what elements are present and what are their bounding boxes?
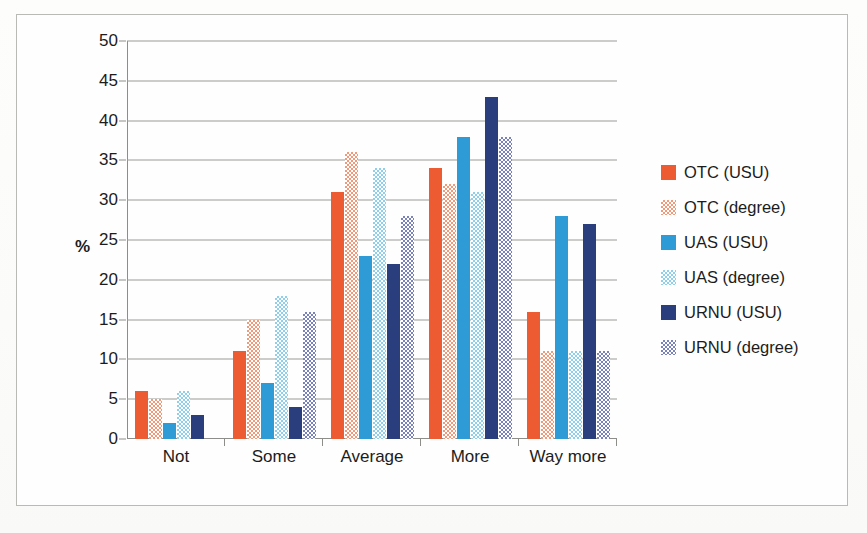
y-tick-label: 40	[99, 111, 118, 131]
bar	[233, 351, 246, 439]
bar	[135, 391, 148, 439]
bar	[457, 137, 470, 439]
y-tick-mark	[119, 399, 126, 400]
bar	[485, 97, 498, 439]
y-axis-title: %	[75, 237, 90, 257]
bar	[163, 423, 176, 439]
y-tick-label: 45	[99, 71, 118, 91]
bar	[597, 351, 610, 439]
y-tick-mark	[119, 439, 126, 440]
bar-group	[323, 41, 421, 439]
legend-item[interactable]: UAS (USU)	[661, 225, 846, 260]
bar	[345, 152, 358, 439]
y-tick-label: 30	[99, 190, 118, 210]
legend-label: URNU (USU)	[684, 303, 782, 322]
y-tick-label: 20	[99, 270, 118, 290]
bar	[569, 351, 582, 439]
bar	[191, 415, 204, 439]
bar	[275, 296, 288, 439]
bar	[443, 184, 456, 439]
bar	[555, 216, 568, 439]
legend-label: UAS (USU)	[684, 233, 768, 252]
bar-group	[421, 41, 519, 439]
legend-item[interactable]: OTC (degree)	[661, 190, 846, 225]
bar	[471, 192, 484, 439]
y-tick-label: 15	[99, 310, 118, 330]
y-tick-mark	[119, 41, 126, 42]
bar	[177, 391, 190, 439]
legend-swatch-icon	[661, 165, 676, 180]
bar	[331, 192, 344, 439]
y-tick-mark	[119, 160, 126, 161]
x-tick-mark	[322, 439, 323, 446]
legend-label: OTC (USU)	[684, 163, 769, 182]
x-tick-mark	[518, 439, 519, 446]
bar	[289, 407, 302, 439]
bar	[401, 216, 414, 439]
bar	[387, 264, 400, 439]
bar	[583, 224, 596, 439]
legend-swatch-icon	[661, 305, 676, 320]
x-tick-mark	[420, 439, 421, 446]
x-axis-category-labels: NotSomeAverageMoreWay more	[127, 447, 617, 467]
bar-group	[127, 41, 225, 439]
y-tick-mark	[119, 80, 126, 81]
y-tick-label: 50	[99, 31, 118, 51]
x-axis-category-label: Not	[127, 447, 225, 467]
y-tick-label: 25	[99, 230, 118, 250]
y-tick-mark	[119, 319, 126, 320]
figure-caption	[18, 516, 858, 533]
x-axis-category-label: More	[421, 447, 519, 467]
x-axis-category-label: Way more	[519, 447, 617, 467]
bar-group	[225, 41, 323, 439]
x-axis-category-label: Some	[225, 447, 323, 467]
bar	[499, 137, 512, 439]
y-tick-mark	[119, 240, 126, 241]
y-tick-mark	[119, 200, 126, 201]
y-tick-mark	[119, 279, 126, 280]
bar	[429, 168, 442, 439]
legend-item[interactable]: UAS (degree)	[661, 260, 846, 295]
bar	[303, 312, 316, 439]
bar-groups	[127, 41, 617, 439]
legend-item[interactable]: URNU (degree)	[661, 330, 846, 365]
bar	[261, 383, 274, 439]
bar-chart: % 50454035302520151050 NotSomeAverageMor…	[17, 15, 849, 507]
y-tick-label: 10	[99, 349, 118, 369]
chart-legend: OTC (USU)OTC (degree)UAS (USU)UAS (degre…	[661, 155, 846, 365]
bar	[541, 351, 554, 439]
legend-label: UAS (degree)	[684, 268, 785, 287]
x-tick-mark	[224, 439, 225, 446]
figure-frame: % 50454035302520151050 NotSomeAverageMor…	[16, 14, 848, 506]
scanned-page-background: % 50454035302520151050 NotSomeAverageMor…	[0, 0, 867, 533]
bar	[359, 256, 372, 439]
legend-label: URNU (degree)	[684, 338, 799, 357]
bar	[527, 312, 540, 439]
legend-item[interactable]: OTC (USU)	[661, 155, 846, 190]
x-axis-category-label: Average	[323, 447, 421, 467]
bar	[373, 168, 386, 439]
y-tick-label: 0	[109, 429, 118, 449]
bar	[149, 399, 162, 439]
y-tick-label: 5	[109, 389, 118, 409]
x-tick-mark	[616, 439, 617, 446]
y-tick-mark	[119, 359, 126, 360]
legend-swatch-icon	[661, 200, 676, 215]
bar-group	[519, 41, 617, 439]
legend-item[interactable]: URNU (USU)	[661, 295, 846, 330]
legend-swatch-icon	[661, 235, 676, 250]
y-tick-mark	[119, 120, 126, 121]
legend-label: OTC (degree)	[684, 198, 786, 217]
plot-area: 50454035302520151050	[127, 41, 617, 439]
legend-swatch-icon	[661, 340, 676, 355]
legend-swatch-icon	[661, 270, 676, 285]
y-tick-label: 35	[99, 150, 118, 170]
bar	[247, 320, 260, 439]
